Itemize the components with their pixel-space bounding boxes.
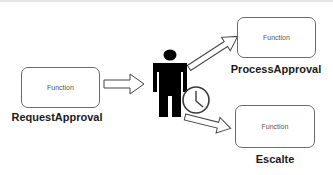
- node-type-text: Function: [262, 123, 289, 130]
- node-label-request-approval: RequestApproval: [11, 111, 102, 123]
- node-process-approval[interactable]: Function: [237, 17, 316, 58]
- arrow-request-to-actor: [104, 74, 144, 94]
- arrow-actor-to-escalate: [183, 109, 232, 136]
- node-type-text: Function: [263, 34, 290, 41]
- clock-icon: [183, 87, 209, 113]
- person-icon: [153, 50, 187, 118]
- node-escalate[interactable]: Function: [235, 105, 315, 148]
- node-label-escalate: Escalte: [256, 153, 295, 165]
- node-label-process-approval: ProcessApproval: [231, 63, 321, 75]
- node-request-approval[interactable]: Function: [21, 67, 100, 108]
- node-type-text: Function: [47, 84, 74, 91]
